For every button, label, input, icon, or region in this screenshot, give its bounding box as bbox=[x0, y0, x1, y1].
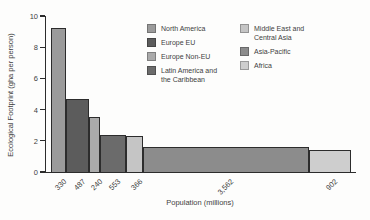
bar-asia-pacific bbox=[143, 147, 309, 172]
legend-column-2: Middle East and Central AsiaAsia-Pacific… bbox=[240, 24, 304, 70]
legend-swatch-asia-pacific bbox=[240, 47, 249, 56]
x-tick-label-latin-america-and-the-caribbean: 553 bbox=[107, 177, 122, 192]
x-tick-label-europe-non-eu: 240 bbox=[89, 177, 104, 192]
x-axis-title: Population (millions) bbox=[45, 198, 355, 207]
legend-label-asia-pacific: Asia-Pacific bbox=[254, 47, 291, 56]
legend-item-north-america: North America bbox=[147, 24, 217, 33]
y-tick-label-2: 2 bbox=[16, 136, 38, 145]
legend-label-europe-eu: Europe EU bbox=[161, 38, 195, 47]
bar-europe-non-eu bbox=[89, 117, 100, 172]
bar-europe-eu bbox=[66, 99, 89, 172]
bar-north-america bbox=[51, 28, 66, 172]
legend-item-asia-pacific: Asia-Pacific bbox=[240, 47, 304, 56]
bar-africa bbox=[309, 150, 351, 172]
legend-label-africa: Africa bbox=[254, 61, 272, 70]
x-tick-label-africa: 902 bbox=[324, 177, 339, 192]
legend-item-middle-east-and-central-asia: Middle East and Central Asia bbox=[240, 24, 304, 42]
x-tick-label-north-america: 330 bbox=[53, 177, 68, 192]
y-tick-label-8: 8 bbox=[16, 43, 38, 52]
y-tick-mark-2 bbox=[40, 140, 45, 141]
y-tick-label-6: 6 bbox=[16, 74, 38, 83]
y-tick-label-10: 10 bbox=[16, 12, 38, 21]
x-tick-label-middle-east-and-central-asia: 366 bbox=[129, 177, 144, 192]
legend-label-middle-east-and-central-asia: Middle East and Central Asia bbox=[254, 24, 304, 42]
legend-column-1: North AmericaEurope EUEurope Non-EULatin… bbox=[147, 24, 217, 84]
legend-swatch-middle-east-and-central-asia bbox=[240, 24, 249, 33]
legend-label-north-america: North America bbox=[161, 24, 205, 33]
legend-swatch-europe-eu bbox=[147, 38, 156, 47]
legend-swatch-africa bbox=[240, 61, 249, 70]
bar-latin-america-and-the-caribbean bbox=[100, 135, 126, 172]
y-tick-label-4: 4 bbox=[16, 105, 38, 114]
x-tick-label-asia-pacific: 3,562 bbox=[216, 177, 236, 197]
legend-item-africa: Africa bbox=[240, 61, 304, 70]
y-tick-label-0: 0 bbox=[16, 168, 38, 177]
y-tick-mark-6 bbox=[40, 78, 45, 79]
y-tick-mark-10 bbox=[40, 15, 45, 16]
bar-middle-east-and-central-asia bbox=[126, 136, 143, 172]
legend-swatch-europe-non-eu bbox=[147, 52, 156, 61]
x-tick-label-europe-eu: 487 bbox=[72, 177, 87, 192]
ecological-footprint-chart: Ecological Footprint (gha per person) 33… bbox=[0, 0, 370, 220]
y-tick-mark-4 bbox=[40, 109, 45, 110]
legend-label-latin-america-and-the-caribbean: Latin America and the Caribbean bbox=[161, 66, 217, 84]
y-axis-title: Ecological Footprint (gha per person) bbox=[6, 10, 15, 180]
legend-item-europe-eu: Europe EU bbox=[147, 38, 217, 47]
legend-swatch-north-america bbox=[147, 24, 156, 33]
legend-item-latin-america-and-the-caribbean: Latin America and the Caribbean bbox=[147, 66, 217, 84]
y-tick-mark-0 bbox=[40, 171, 45, 172]
legend-swatch-latin-america-and-the-caribbean bbox=[147, 66, 156, 75]
y-tick-mark-8 bbox=[40, 47, 45, 48]
legend-label-europe-non-eu: Europe Non-EU bbox=[161, 52, 210, 61]
legend-item-europe-non-eu: Europe Non-EU bbox=[147, 52, 217, 61]
